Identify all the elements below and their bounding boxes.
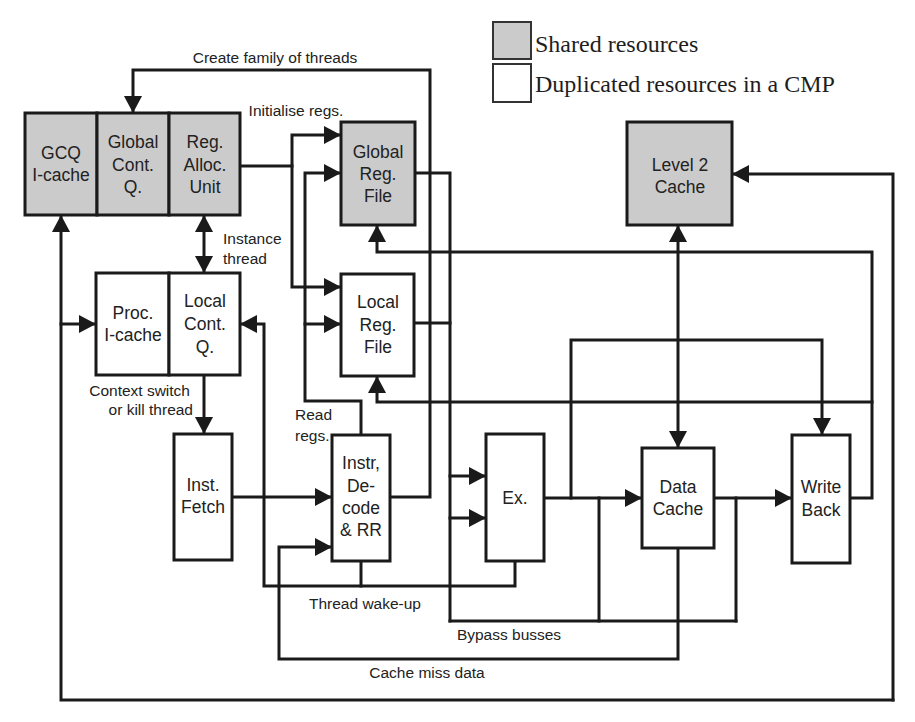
- legend: Shared resources Duplicated resources in…: [493, 22, 835, 102]
- block-label: & RR: [340, 520, 382, 540]
- instance-thread-label-line2: thread: [223, 250, 267, 267]
- block-label: Reg.: [360, 315, 397, 335]
- legend-swatch-shared: [493, 22, 531, 59]
- shared-resource-box: [25, 113, 97, 215]
- bypass-busses-label: Bypass busses: [457, 626, 561, 643]
- block-label: Cache: [653, 499, 704, 519]
- instr-decode-block: Instr, De- code & RR: [332, 435, 390, 561]
- global-reg-file-block: Global Reg. File: [341, 122, 415, 225]
- global-reg-output-wire: [415, 173, 450, 621]
- duplicated-resource-box: [642, 448, 714, 548]
- create-family-label: Create family of threads: [193, 49, 358, 66]
- block-label: De-: [347, 476, 375, 496]
- legend-label-duplicated: Duplicated resources in a CMP: [535, 71, 835, 97]
- initialise-regs-global-wire: [240, 135, 341, 166]
- local-cont-q-block: Local Cont. Q.: [169, 273, 240, 375]
- block-label: Ex.: [502, 488, 527, 508]
- block-label: Back: [802, 500, 841, 520]
- block-label: Data: [660, 477, 697, 497]
- execute-block: Ex.: [486, 434, 544, 561]
- read-regs-label-line2: regs.: [295, 427, 329, 444]
- block-label: Cont.: [184, 314, 226, 334]
- instance-thread-label-line1: Instance: [223, 230, 282, 247]
- block-label: code: [342, 498, 380, 518]
- block-label: Q.: [196, 337, 214, 357]
- write-back-block: Write Back: [792, 435, 850, 563]
- gcq-icache-block: GCQ I-cache: [25, 113, 97, 215]
- proc-icache-block: Proc. I-cache: [96, 273, 169, 375]
- cache-miss-data-label: Cache miss data: [369, 664, 485, 681]
- block-label: I-cache: [32, 165, 89, 185]
- initialise-regs-local-wire: [292, 166, 341, 287]
- inst-fetch-block: Inst. Fetch: [174, 434, 232, 560]
- block-label: Q.: [124, 177, 142, 197]
- block-label: Proc.: [113, 303, 154, 323]
- block-label: File: [364, 186, 392, 206]
- blocks: GCQ I-cache Global Cont. Q. Reg. Alloc. …: [25, 113, 850, 563]
- block-label: Local: [357, 292, 399, 312]
- legend-swatch-duplicated: [493, 64, 531, 102]
- block-label: Level 2: [652, 155, 708, 175]
- block-label: Inst.: [186, 475, 219, 495]
- block-label: Unit: [189, 177, 220, 197]
- legend-label-shared: Shared resources: [535, 31, 698, 57]
- reg-alloc-unit-block: Reg. Alloc. Unit: [169, 113, 240, 215]
- block-label: Cont.: [112, 155, 154, 175]
- duplicated-resource-box: [792, 435, 850, 563]
- context-switch-label-line2: or kill thread: [109, 401, 193, 418]
- block-label: Alloc.: [184, 155, 227, 175]
- block-label: I-cache: [104, 325, 161, 345]
- context-switch-label-line1: Context switch: [89, 382, 190, 399]
- initialise-regs-label: Initialise regs.: [249, 102, 344, 119]
- data-cache-block: Data Cache: [642, 448, 714, 548]
- block-label: Fetch: [181, 497, 225, 517]
- block-label: Global: [353, 142, 404, 162]
- block-label: Instr,: [342, 453, 380, 473]
- block-label: Reg.: [187, 132, 224, 152]
- microthreaded-cmp-pipeline-diagram: Shared resources Duplicated resources in…: [0, 0, 915, 722]
- block-label: File: [364, 337, 392, 357]
- global-cont-q-block: Global Cont. Q.: [97, 113, 169, 215]
- block-label: Global: [108, 132, 159, 152]
- block-label: Reg.: [360, 164, 397, 184]
- block-label: Write: [801, 477, 842, 497]
- block-label: Cache: [655, 177, 706, 197]
- duplicated-resource-box: [96, 273, 169, 375]
- block-label: GCQ: [41, 143, 81, 163]
- read-regs-label-line1: Read: [295, 406, 332, 423]
- thread-wakeup-label: Thread wake-up: [309, 595, 421, 612]
- block-label: Local: [184, 291, 226, 311]
- local-reg-file-block: Local Reg. File: [341, 274, 414, 376]
- level2-cache-block: Level 2 Cache: [627, 122, 732, 225]
